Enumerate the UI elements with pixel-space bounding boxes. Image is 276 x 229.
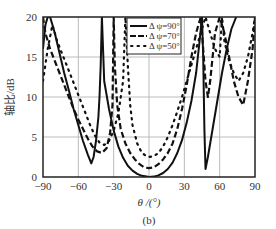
x-tick-label: −90 — [34, 180, 52, 192]
y-axis-label: 轴比/dB — [3, 78, 16, 116]
y-axis-ticks: 05101520 — [26, 11, 38, 183]
legend-label-90: Δ ψ=90° — [149, 21, 180, 31]
x-tick-label: 0 — [146, 180, 152, 192]
legend-label-50: Δ ψ=50° — [149, 41, 180, 51]
axial-ratio-chart: 05101520 −90−60−300306090 轴比/dB θ /(°) (… — [0, 0, 276, 229]
x-tick-label: −60 — [70, 180, 88, 192]
y-tick-label: 10 — [26, 91, 38, 103]
y-tick-label: 15 — [26, 51, 38, 63]
y-tick-label: 5 — [32, 131, 38, 143]
x-axis-ticks: −90−60−300306090 — [34, 180, 261, 192]
legend-label-70: Δ ψ=70° — [149, 31, 180, 41]
y-tick-label: 20 — [26, 11, 38, 23]
figure-caption: (b) — [143, 214, 156, 227]
legend: Δ ψ=90° Δ ψ=70° Δ ψ=50° — [127, 18, 181, 54]
x-axis-label: θ /(°) — [138, 196, 161, 209]
x-tick-label: −30 — [105, 180, 123, 192]
x-tick-label: 60 — [214, 180, 226, 192]
x-tick-label: 30 — [179, 180, 191, 192]
x-tick-label: 90 — [250, 180, 262, 192]
